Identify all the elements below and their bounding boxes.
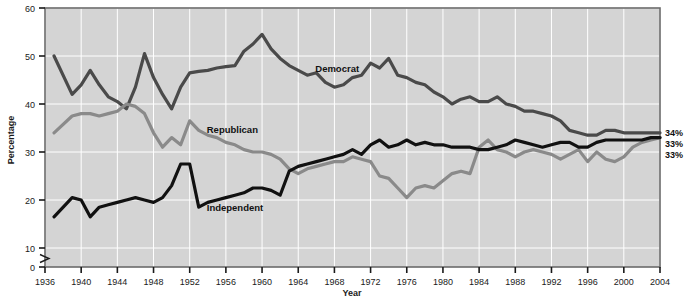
x-tick-label: 1944 bbox=[107, 277, 127, 287]
y-tick-label: 60 bbox=[25, 4, 35, 14]
x-tick-label: 1976 bbox=[397, 277, 417, 287]
line-chart-svg: 0102030405060 19361940194419481952195619… bbox=[0, 0, 698, 304]
x-tick-label: 1992 bbox=[541, 277, 561, 287]
x-tick-label: 1984 bbox=[469, 277, 489, 287]
x-tick-label: 2004 bbox=[650, 277, 670, 287]
y-axis-title: Percentage bbox=[6, 116, 16, 165]
x-tick-label: 1940 bbox=[71, 277, 91, 287]
series-label-independent: Independent bbox=[207, 202, 264, 213]
political-party-affiliation-chart: 0102030405060 19361940194419481952195619… bbox=[0, 0, 698, 304]
y-tick-label: 0 bbox=[30, 263, 35, 273]
x-tick-label: 1980 bbox=[433, 277, 453, 287]
x-tick-label: 1972 bbox=[361, 277, 381, 287]
end-value-label-republican: 33% bbox=[665, 139, 683, 149]
x-tick-label: 1936 bbox=[35, 277, 55, 287]
x-tick-label: 1964 bbox=[288, 277, 308, 287]
series-label-republican: Republican bbox=[207, 124, 258, 135]
y-tick-label: 50 bbox=[25, 52, 35, 62]
plot-area-background bbox=[45, 8, 660, 267]
x-tick-label: 1996 bbox=[578, 277, 598, 287]
series-label-democrat: Democrat bbox=[315, 63, 360, 74]
x-axis-title: Year bbox=[342, 288, 362, 298]
x-tick-label: 1968 bbox=[324, 277, 344, 287]
x-tick-label: 2000 bbox=[614, 277, 634, 287]
x-tick-label: 1960 bbox=[252, 277, 272, 287]
y-tick-label: 20 bbox=[25, 196, 35, 206]
x-tick-label: 1952 bbox=[180, 277, 200, 287]
end-value-label-independent: 33% bbox=[665, 150, 683, 160]
x-tick-label: 1948 bbox=[144, 277, 164, 287]
series-end-value-labels: 34%33%33% bbox=[665, 128, 683, 160]
x-tick-label: 1988 bbox=[505, 277, 525, 287]
y-tick-label: 10 bbox=[25, 244, 35, 254]
x-tick-label: 1956 bbox=[216, 277, 236, 287]
y-tick-label: 30 bbox=[25, 148, 35, 158]
end-value-label-democrat: 34% bbox=[665, 128, 683, 138]
y-tick-label: 40 bbox=[25, 100, 35, 110]
